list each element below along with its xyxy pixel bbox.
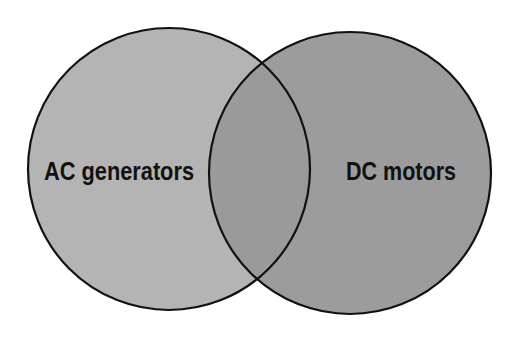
label-dc-motors: DC motors — [346, 157, 456, 185]
venn-diagram: AC generators DC motors — [0, 0, 522, 341]
label-ac-generators: AC generators — [44, 157, 194, 185]
